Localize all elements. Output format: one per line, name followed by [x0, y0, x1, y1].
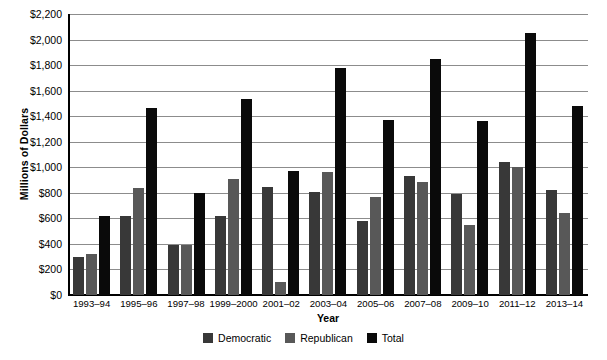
legend-item: Total: [367, 332, 404, 344]
x-axis-tick-label: 1999–2000: [210, 298, 258, 309]
x-axis-tick-label: 2005–06: [352, 298, 399, 309]
bar-group: [163, 14, 210, 295]
bar-group: [68, 14, 115, 295]
bar-republican: [133, 188, 144, 295]
bar-republican: [464, 225, 475, 295]
legend-swatch-icon: [203, 333, 213, 343]
x-axis-tick-labels: 1993–941995–961997–981999–20002001–02200…: [68, 298, 588, 309]
y-axis-tick-label: $600: [2, 212, 62, 224]
bar-republican: [181, 245, 192, 295]
bar-chart: Millions of Dollars $2,200$2,000$1,800$1…: [0, 0, 607, 360]
bar-total: [241, 99, 252, 295]
bar-democratic: [404, 176, 415, 295]
bar-democratic: [73, 257, 84, 295]
chart-legend: DemocraticRepublicanTotal: [0, 332, 607, 344]
bar-republican: [559, 213, 570, 295]
bar-group: [210, 14, 257, 295]
plot-area: [68, 14, 588, 295]
x-axis-tick-label: 1997–98: [162, 298, 209, 309]
bar-group: [115, 14, 162, 295]
y-axis-tick-label: $1,400: [2, 110, 62, 122]
x-axis-tick-label: 2011–12: [494, 298, 541, 309]
bar-republican: [417, 182, 428, 295]
x-axis-tick-label: 2009–10: [446, 298, 493, 309]
bar-total: [430, 59, 441, 295]
bar-republican: [512, 167, 523, 295]
bar-total: [477, 121, 488, 295]
bar-democratic: [357, 221, 368, 295]
y-axis-tick-label: $0: [2, 289, 62, 301]
bar-total: [572, 106, 583, 295]
bar-republican: [275, 282, 286, 295]
bar-democratic: [451, 194, 462, 295]
bar-group: [257, 14, 304, 295]
bar-democratic: [262, 187, 273, 295]
bar-democratic: [215, 216, 226, 295]
bar-republican: [322, 172, 333, 295]
x-axis-title: Year: [68, 312, 588, 324]
y-axis-tick-label: $200: [2, 263, 62, 275]
x-axis-tick-label: 2007–08: [399, 298, 446, 309]
y-axis-tick-label: $1,800: [2, 59, 62, 71]
x-axis-tick-label: 1993–94: [68, 298, 115, 309]
bar-democratic: [546, 190, 557, 295]
bar-total: [99, 216, 110, 295]
bar-democratic: [120, 216, 131, 295]
bar-group: [493, 14, 540, 295]
legend-label: Democratic: [218, 332, 271, 344]
bar-group: [304, 14, 351, 295]
legend-label: Republican: [300, 332, 353, 344]
bar-total: [288, 171, 299, 295]
bar-group: [352, 14, 399, 295]
x-axis-tick-label: 2003–04: [305, 298, 352, 309]
legend-item: Democratic: [203, 332, 271, 344]
x-axis-tick-label: 2013–14: [541, 298, 588, 309]
bar-total: [525, 33, 536, 295]
bar-republican: [86, 254, 97, 295]
legend-swatch-icon: [367, 333, 377, 343]
bar-democratic: [309, 192, 320, 295]
bar-group: [541, 14, 588, 295]
y-axis-tick-label: $400: [2, 238, 62, 250]
y-axis-tick-labels: $2,200$2,000$1,800$1,600$1,400$1,200$1,0…: [0, 14, 62, 295]
x-axis-tick-label: 1995–96: [115, 298, 162, 309]
y-axis-tick-label: $2,200: [2, 8, 62, 20]
bar-republican: [370, 197, 381, 295]
bar-group: [446, 14, 493, 295]
bar-republican: [228, 179, 239, 295]
y-axis-tick-label: $1,000: [2, 161, 62, 173]
bar-total: [383, 120, 394, 295]
legend-item: Republican: [285, 332, 353, 344]
bar-total: [146, 108, 157, 295]
bar-group: [399, 14, 446, 295]
bar-democratic: [168, 245, 179, 295]
legend-swatch-icon: [285, 333, 295, 343]
bar-total: [335, 68, 346, 295]
bar-democratic: [499, 162, 510, 295]
bar-groups: [68, 14, 588, 295]
y-axis-tick-label: $800: [2, 187, 62, 199]
legend-label: Total: [382, 332, 404, 344]
x-axis-tick-label: 2001–02: [258, 298, 305, 309]
y-axis-tick-label: $1,600: [2, 85, 62, 97]
y-axis-tick-label: $2,000: [2, 34, 62, 46]
y-axis-tick-label: $1,200: [2, 136, 62, 148]
bar-total: [194, 193, 205, 295]
